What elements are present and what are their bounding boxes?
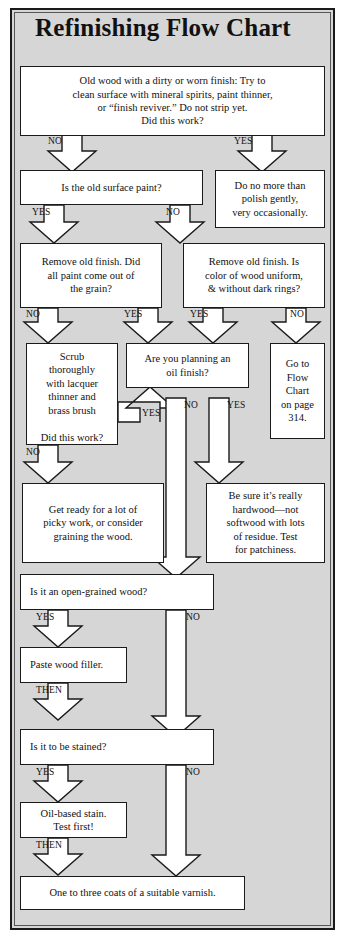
edge-label-n6-yes: YES <box>142 408 161 418</box>
node-picky-work-graining[interactable]: Get ready for a lot of picky work, or co… <box>22 483 164 563</box>
node-line: for patchiness. <box>235 544 296 555</box>
node-line: Flow <box>287 372 309 383</box>
node-line: or “finish reviver.” Do not strip yet. <box>98 102 248 113</box>
node-line: One to three coats of a suitable varnish… <box>25 886 240 899</box>
node-line: Chart <box>286 385 309 396</box>
flow-chart-page: Refinishing Flow Chart <box>0 0 345 940</box>
edge-label-n4-no: NO <box>26 309 40 319</box>
edge-label-n13-no: NO <box>186 767 200 777</box>
node-line: Scrub <box>60 351 85 362</box>
node-line: Old wood with a dirty or worn finish: Tr… <box>80 75 266 86</box>
edge-label-n5-no: NO <box>290 309 304 319</box>
node-line: Is it an open-grained wood? <box>30 585 209 598</box>
edge-label-n1-yes: YES <box>234 136 253 146</box>
node-line: Did this work? <box>141 115 203 126</box>
node-go-to-flow-chart-314[interactable]: Go to Flow Chart on page 314. <box>270 343 325 439</box>
node-line: & without dark rings? <box>208 283 300 294</box>
node-line: picky work, or consider <box>43 517 143 528</box>
edge-label-n7-yes: YES <box>227 400 246 410</box>
node-line: oil finish? <box>166 367 208 378</box>
edge-label-n5-yes: YES <box>190 309 209 319</box>
node-line: Be sure it’s really <box>229 490 303 501</box>
node-remove-finish-color-uniform[interactable]: Remove old finish. Is color of wood unif… <box>183 243 325 308</box>
node-line: thinner and <box>48 391 96 402</box>
node-line: with lacquer <box>46 378 98 389</box>
edge-label-n14-then: THEN <box>36 840 62 850</box>
node-is-old-surface-paint[interactable]: Is the old surface paint? <box>20 170 203 205</box>
edge-label-n4-yes: YES <box>124 309 143 319</box>
node-line: Remove old finish. Did <box>42 256 141 267</box>
node-line: Paste wood filler. <box>30 658 122 671</box>
node-line: Is it to be stained? <box>30 740 209 753</box>
node-line: clean surface with mineral spirits, pain… <box>72 89 272 100</box>
node-confirm-hardwood[interactable]: Be sure it’s really hardwood—not softwoo… <box>206 483 325 563</box>
node-initial-assessment[interactable]: Old wood with a dirty or worn finish: Tr… <box>20 66 325 136</box>
node-line: Is the old surface paint? <box>25 181 198 194</box>
arrow-n13-to-n15 <box>152 765 200 876</box>
edge-label-n11-yes: YES <box>36 612 55 622</box>
edge-label-n7-no: NO <box>184 400 198 410</box>
edge-label-n13-yes: YES <box>36 767 55 777</box>
node-line: Are you planning an <box>144 353 230 364</box>
node-line: Do no more than <box>235 180 306 191</box>
node-line: softwood with lots <box>226 517 304 528</box>
node-is-to-be-stained[interactable]: Is it to be stained? <box>20 729 214 765</box>
node-line: of residue. Test <box>233 531 297 542</box>
node-polish-gently[interactable]: Do no more than polish gently, very occa… <box>215 170 325 228</box>
node-line: 314. <box>288 412 306 423</box>
node-line: hardwood—not <box>233 504 299 515</box>
node-oil-based-stain[interactable]: Oil-based stain. Test first! <box>20 802 127 838</box>
edge-label-n2-yes: YES <box>32 207 51 217</box>
node-line: thoroughly <box>49 364 95 375</box>
edge-label-n11-no: NO <box>186 612 200 622</box>
node-scrub-lacquer-thinner[interactable]: Scrub thoroughly with lacquer thinner an… <box>26 343 118 445</box>
node-line: color of wood uniform, <box>205 270 303 281</box>
node-line: Test first! <box>53 821 93 832</box>
node-line: Oil-based stain. <box>41 808 107 819</box>
node-line: Get ready for a lot of <box>49 504 137 515</box>
edge-label-n6-no: NO <box>26 447 40 457</box>
node-line: polish gently, <box>242 193 298 204</box>
node-planning-oil-finish[interactable]: Are you planning an oil finish? <box>126 343 249 388</box>
node-line: very occasionally. <box>232 207 308 218</box>
edge-label-n12-then: THEN <box>36 685 62 695</box>
node-line: all paint come out of <box>48 270 135 281</box>
node-final-varnish[interactable]: One to three coats of a suitable varnish… <box>20 876 245 910</box>
node-line: graining the wood. <box>53 531 132 542</box>
node-line: Remove old finish. Is <box>209 256 299 267</box>
node-line: on page <box>281 399 314 410</box>
node-is-open-grained-wood[interactable]: Is it an open-grained wood? <box>20 574 214 610</box>
node-line: brass brush <box>48 405 96 416</box>
arrow-n7-to-n10 <box>195 398 243 483</box>
edge-label-n2-no: NO <box>166 207 180 217</box>
edge-label-n1-no: NO <box>48 136 62 146</box>
node-paste-wood-filler[interactable]: Paste wood filler. <box>20 647 127 683</box>
node-remove-finish-paint-in-grain[interactable]: Remove old finish. Did all paint come ou… <box>20 243 162 308</box>
node-line: the grain? <box>70 283 112 294</box>
arrow-n11-to-n13 <box>152 610 200 737</box>
node-line: Did this work? <box>41 432 103 443</box>
node-line: Go to <box>286 358 310 369</box>
